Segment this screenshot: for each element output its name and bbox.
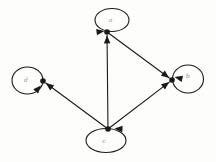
node-c	[105, 126, 111, 132]
node-a	[104, 29, 110, 35]
node-d	[40, 78, 46, 84]
graph-diagram: abcd	[0, 0, 216, 162]
edge-a-b	[107, 32, 169, 78]
edge-c-a	[107, 35, 108, 129]
self-loop-arrowhead-b	[175, 76, 184, 82]
edge-arrowhead-c-d	[46, 83, 54, 90]
node-label-b: b	[186, 72, 190, 79]
node-label-d: d	[24, 76, 28, 83]
edge-arrowhead-c-a	[104, 35, 111, 43]
node-label-c: c	[102, 137, 106, 144]
edge-c-d	[46, 83, 108, 129]
edge-c-b	[108, 82, 169, 129]
node-b	[169, 77, 175, 83]
edge-arrowhead-a-b	[161, 71, 169, 78]
node-label-a: a	[109, 16, 113, 23]
edge-arrowhead-c-b	[161, 82, 169, 89]
self-loop-c	[86, 129, 126, 153]
graph-canvas: abcd	[0, 0, 216, 162]
